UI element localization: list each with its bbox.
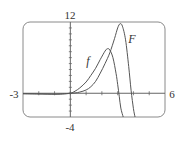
series-label-F: F — [127, 32, 136, 46]
x-min-label: -3 — [9, 88, 19, 100]
series-label-f: f — [86, 54, 91, 68]
curves — [23, 24, 135, 117]
curve-F — [23, 24, 135, 117]
axes — [23, 22, 165, 117]
y-max-label: 12 — [65, 9, 76, 21]
y-min-label: -4 — [65, 121, 75, 133]
curve-f — [23, 49, 123, 117]
plot-frame — [23, 22, 165, 117]
x-max-label: 6 — [169, 88, 175, 100]
chart: -3 6 12 -4 f F — [0, 0, 178, 144]
